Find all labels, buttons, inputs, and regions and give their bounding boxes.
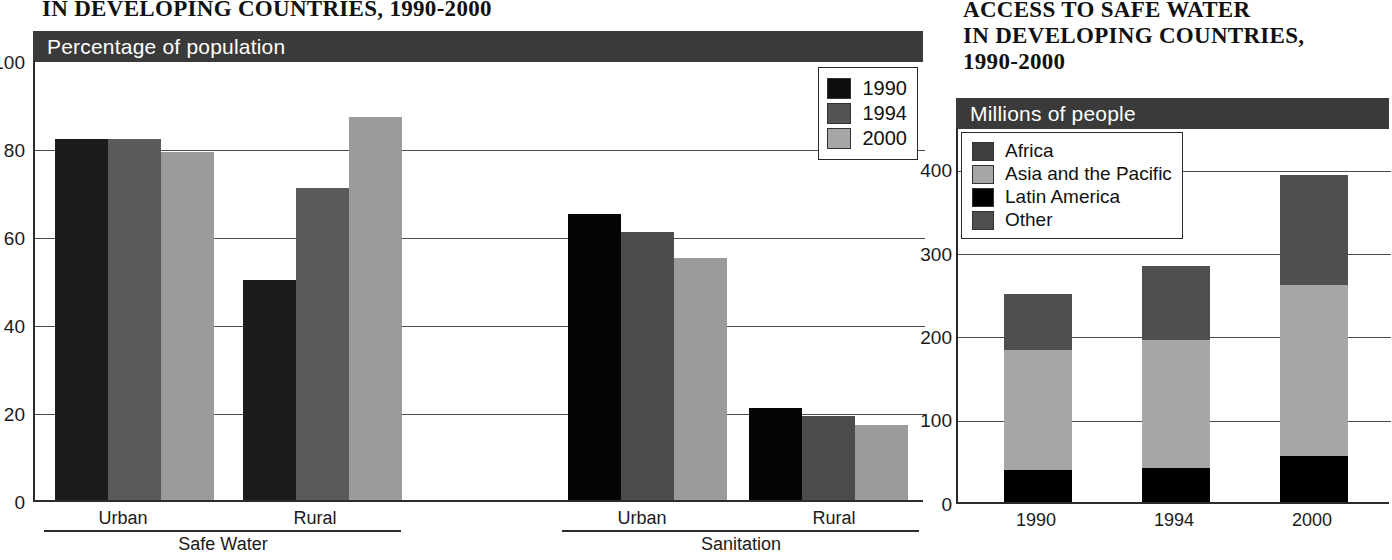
left-sublabel-safewater-rural: Rural xyxy=(225,508,405,529)
right-y-tick-100: 100 xyxy=(898,410,952,432)
legend-swatch-other-icon xyxy=(972,211,994,230)
right-chart-plot-area: Africa Asia and the Pacific Latin Americ… xyxy=(956,129,1389,504)
left-sublabel-safewater-urban: Urban xyxy=(33,508,213,529)
bar-sanitation-rural-1994 xyxy=(802,416,855,500)
legend-swatch-latin-america-icon xyxy=(972,188,994,207)
right-y-tick-300: 300 xyxy=(898,244,952,266)
legend-swatch-africa-icon xyxy=(972,142,994,161)
segment-1990-asia-pacific xyxy=(1004,350,1072,471)
bar-sanitation-rural-1990 xyxy=(749,408,802,500)
legend-swatch-1994-icon xyxy=(827,103,851,124)
left-y-tick-0: 0 xyxy=(0,492,25,514)
left-y-tick-80: 80 xyxy=(0,140,25,162)
legend-label-2000: 2000 xyxy=(863,127,908,150)
bar-sanitation-urban-2000 xyxy=(674,258,727,500)
segment-2000-other xyxy=(1280,175,1348,285)
legend-item-1990: 1990 xyxy=(827,77,908,100)
legend-item-africa: Africa xyxy=(972,140,1172,162)
left-chart-band-label: Percentage of population xyxy=(33,31,923,62)
left-sublabel-sanitation-rural: Rural xyxy=(744,508,924,529)
group-rule-safewater xyxy=(44,530,401,532)
left-chart-plot-area: 1990 1994 2000 xyxy=(33,62,923,502)
left-sublabel-sanitation-urban: Urban xyxy=(552,508,732,529)
left-gridline-80 xyxy=(35,150,925,151)
bar-safewater-urban-1994 xyxy=(108,139,161,500)
right-y-tick-200: 200 xyxy=(898,327,952,349)
left-group-label-sanitation: Sanitation xyxy=(651,534,831,555)
right-x-tick-2000: 2000 xyxy=(1232,510,1392,531)
legend-item-1994: 1994 xyxy=(827,102,908,125)
bar-sanitation-urban-1994 xyxy=(621,232,674,500)
stacked-bar-1990 xyxy=(1004,294,1072,502)
legend-swatch-asia-pacific-icon xyxy=(972,165,994,184)
bar-sanitation-rural-2000 xyxy=(855,425,908,500)
legend-item-asia-pacific: Asia and the Pacific xyxy=(972,163,1172,185)
bar-safewater-rural-1990 xyxy=(243,280,296,500)
segment-2000-latin-america xyxy=(1280,456,1348,502)
legend-item-other: Other xyxy=(972,209,1172,231)
left-y-tick-20: 20 xyxy=(0,404,25,426)
left-group-label-safewater: Safe Water xyxy=(133,534,313,555)
segment-1994-asia-pacific xyxy=(1142,340,1210,468)
legend-label-asia-pacific: Asia and the Pacific xyxy=(1005,163,1172,185)
legend-item-2000: 2000 xyxy=(827,127,908,150)
bar-safewater-urban-2000 xyxy=(161,152,214,500)
left-chart-title: IN DEVELOPING COUNTRIES, 1990-2000 xyxy=(42,0,492,22)
right-chart-title-line-2: IN DEVELOPING COUNTRIES, xyxy=(963,23,1304,49)
legend-label-1990: 1990 xyxy=(863,77,908,100)
legend-swatch-1990-icon xyxy=(827,78,851,99)
bar-safewater-rural-1994 xyxy=(296,188,349,500)
legend-label-africa: Africa xyxy=(1005,140,1054,162)
right-chart-band-label: Millions of people xyxy=(956,98,1389,129)
stacked-bar-1994 xyxy=(1142,266,1210,502)
group-rule-sanitation xyxy=(562,530,919,532)
right-chart-legend: Africa Asia and the Pacific Latin Americ… xyxy=(961,132,1183,239)
legend-label-latin-america: Latin America xyxy=(1005,186,1120,208)
legend-label-1994: 1994 xyxy=(863,102,908,125)
percentage-chart-panel: IN DEVELOPING COUNTRIES, 1990-2000 Perce… xyxy=(0,0,928,560)
right-y-tick-400: 400 xyxy=(898,160,952,182)
stacked-bar-2000 xyxy=(1280,175,1348,502)
segment-1994-other xyxy=(1142,266,1210,340)
left-y-tick-100: 100 xyxy=(0,52,25,74)
bar-sanitation-urban-1990 xyxy=(568,214,621,500)
legend-label-other: Other xyxy=(1005,209,1053,231)
right-chart-title-line-3: 1990-2000 xyxy=(963,49,1304,75)
legend-item-latin-america: Latin America xyxy=(972,186,1172,208)
millions-chart-panel: ACCESS TO SAFE WATER IN DEVELOPING COUNT… xyxy=(928,0,1389,560)
right-y-tick-0: 0 xyxy=(916,494,952,516)
right-chart-title-line-1: ACCESS TO SAFE WATER xyxy=(963,0,1304,23)
right-x-tick-1994: 1994 xyxy=(1094,510,1254,531)
right-chart-title: ACCESS TO SAFE WATER IN DEVELOPING COUNT… xyxy=(963,0,1304,75)
left-chart-legend: 1990 1994 2000 xyxy=(818,67,919,160)
right-x-tick-1990: 1990 xyxy=(956,510,1116,531)
segment-1994-latin-america xyxy=(1142,468,1210,502)
legend-swatch-2000-icon xyxy=(827,128,851,149)
left-y-tick-60: 60 xyxy=(0,228,25,250)
segment-1990-other xyxy=(1004,294,1072,350)
bar-safewater-urban-1990 xyxy=(55,139,108,500)
segment-1990-latin-america xyxy=(1004,470,1072,502)
segment-2000-asia-pacific xyxy=(1280,285,1348,456)
bar-safewater-rural-2000 xyxy=(349,117,402,500)
left-y-tick-40: 40 xyxy=(0,316,25,338)
